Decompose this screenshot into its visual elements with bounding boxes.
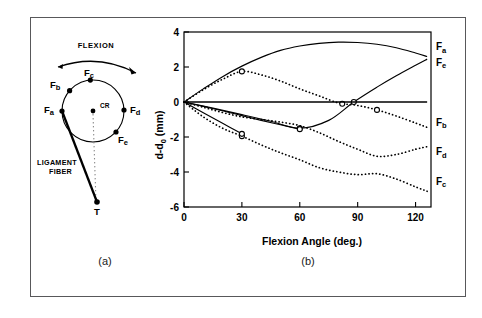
- x-axis-title: Flexion Angle (deg.): [262, 235, 362, 247]
- center-of-rotation-label: CR: [100, 102, 110, 109]
- flexion-label: FLEXION: [78, 41, 115, 50]
- point-fd-dot: [121, 107, 126, 112]
- series-marker-fc-lower-branch: [239, 131, 244, 136]
- tibial-insertion-dot: [94, 199, 100, 205]
- ligament-fiber-label-line1: LIGAMENT: [37, 158, 77, 167]
- figure-root: FLEXION CR Fa Fb Fc Fd Fe: [0, 0, 482, 318]
- x-tick-label: 90: [352, 212, 364, 223]
- panel-b-chart: d-d0 (mm) Flexion Angle (deg.) 030609012…: [150, 17, 466, 297]
- tibial-insertion-label: T: [94, 206, 100, 217]
- series-label-fa: Fa: [436, 41, 447, 54]
- point-fb-dot: [67, 88, 72, 93]
- flexion-arrow: [58, 61, 136, 74]
- ligament-fiber-label-line2: FIBER: [49, 167, 73, 176]
- series-path-fc-lower-branch: [184, 102, 242, 134]
- x-tick-label: 30: [236, 212, 248, 223]
- series-marker-fd-lower-branch: [297, 127, 302, 132]
- y-axis-title: d-d0 (mm): [153, 110, 168, 159]
- point-fd-label: Fd: [130, 104, 141, 117]
- y-tick-label: 4: [173, 27, 179, 38]
- flexion-displacement-plot: d-d0 (mm) Flexion Angle (deg.) 030609012…: [150, 17, 466, 257]
- y-tick-label: 2: [173, 62, 179, 73]
- series-path-fe: [184, 59, 427, 128]
- x-tick-label: 120: [407, 212, 424, 223]
- series-path-fb: [184, 71, 427, 127]
- series-marker-fb: [374, 107, 379, 112]
- series-label-fb: Fb: [436, 117, 447, 130]
- plot-body: 0306090120420-2-4-6FaFeFbFdFc: [170, 27, 447, 224]
- point-fb-label: Fb: [50, 79, 61, 92]
- series-label-fd: Fd: [436, 146, 447, 159]
- series-label-fc: Fc: [436, 176, 446, 189]
- point-fc-label: Fc: [84, 67, 94, 80]
- series-label-fe: Fe: [436, 57, 446, 70]
- point-fe-label: Fe: [118, 134, 128, 147]
- y-tick-label: -6: [170, 202, 179, 213]
- y-axis-title-group: d-d0 (mm): [153, 110, 168, 159]
- y-tick-label: 0: [173, 97, 179, 108]
- center-of-rotation-dot: [91, 109, 96, 114]
- panel-b-caption: (b): [150, 255, 466, 267]
- series-path-fa: [184, 42, 427, 102]
- x-tick-label: 60: [294, 212, 306, 223]
- point-fa-label: Fa: [44, 104, 55, 117]
- series-path-fc: [184, 102, 427, 191]
- x-tick-label: 0: [181, 212, 187, 223]
- reference-axis-line: [93, 114, 96, 202]
- plot-frame: [184, 32, 431, 207]
- y-tick-label: -4: [170, 167, 179, 178]
- ligament-fiber-line: [62, 111, 97, 202]
- y-tick-label: -2: [170, 132, 179, 143]
- series-marker-fb: [239, 69, 244, 74]
